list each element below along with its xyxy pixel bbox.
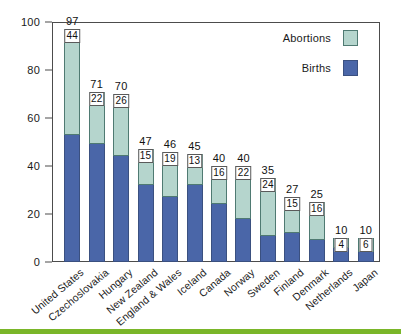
bar-total-label: 25 <box>297 189 337 200</box>
bar-segment-births[interactable] <box>187 185 203 262</box>
y-tick-mark <box>45 70 52 71</box>
y-axis: 020406080100 <box>0 0 52 336</box>
bar-segment-births[interactable] <box>89 144 105 262</box>
y-tick-mark <box>45 262 52 263</box>
abortions-value-label: 4 <box>335 238 348 252</box>
bar-group[interactable]: 2240 <box>235 166 251 262</box>
bar-stack <box>138 149 154 262</box>
abortions-value-label: 26 <box>113 94 129 108</box>
abortions-value-label: 44 <box>64 29 80 43</box>
bar-group[interactable]: 1547 <box>138 149 154 262</box>
bar-total-label: 70 <box>101 81 141 92</box>
bar-total-label: 10 <box>346 225 386 236</box>
bar-total-label: 97 <box>52 16 92 27</box>
bar-segment-births[interactable] <box>64 135 80 262</box>
bar-group[interactable]: 1527 <box>284 197 300 262</box>
y-tick-label: 40 <box>27 161 40 172</box>
bar-total-label: 40 <box>223 153 263 164</box>
y-tick-mark <box>45 214 52 215</box>
bar-total-label: 35 <box>248 165 288 176</box>
y-tick-label: 100 <box>21 17 40 28</box>
chart-legend: AbortionsBirths <box>246 30 358 90</box>
legend-label: Births <box>302 62 331 74</box>
legend-swatch-abortions <box>343 30 358 46</box>
bar-group[interactable]: 1640 <box>211 166 227 262</box>
bar-segment-births[interactable] <box>358 252 374 262</box>
bar-segment-births[interactable] <box>211 204 227 262</box>
bar-stack <box>187 154 203 262</box>
bar-stack <box>211 166 227 262</box>
bar-total-label: 45 <box>175 141 215 152</box>
legend-swatch-births <box>343 60 358 76</box>
bar-segment-births[interactable] <box>309 240 325 262</box>
abortions-value-label: 16 <box>211 166 227 180</box>
bar-segment-births[interactable] <box>138 185 154 262</box>
bar-group[interactable]: 2670 <box>113 94 129 262</box>
abortions-value-label: 6 <box>359 238 372 252</box>
abortions-value-label: 22 <box>89 92 105 106</box>
bar-group[interactable]: 1946 <box>162 152 178 262</box>
bar-stack <box>162 152 178 262</box>
y-tick-mark <box>45 22 52 23</box>
legend-item-abortions[interactable]: Abortions <box>246 30 358 46</box>
bottom-accent-band <box>0 329 401 334</box>
bar-segment-births[interactable] <box>260 236 276 262</box>
y-tick-label: 0 <box>34 257 40 268</box>
bar-segment-births[interactable] <box>113 156 129 262</box>
bar-group[interactable]: 610 <box>358 238 374 262</box>
y-tick-label: 20 <box>27 209 40 220</box>
y-tick-mark <box>45 118 52 119</box>
abortions-value-label: 15 <box>138 149 154 163</box>
bar-stack <box>64 29 80 262</box>
bar-segment-births[interactable] <box>284 233 300 262</box>
bar-stack <box>113 94 129 262</box>
bar-group[interactable]: 2271 <box>89 92 105 262</box>
bar-segment-births[interactable] <box>162 197 178 262</box>
y-tick-label: 60 <box>27 113 40 124</box>
bar-group[interactable]: 4497 <box>64 29 80 262</box>
x-axis-label-japan: Japan <box>349 266 379 294</box>
bar-stack <box>235 166 251 262</box>
bar-stack <box>89 92 105 262</box>
legend-label: Abortions <box>283 32 331 44</box>
bar-group[interactable]: 410 <box>333 238 349 262</box>
abortions-value-label: 19 <box>162 152 178 166</box>
x-axis-category-labels: United StatesCzechoslovakiaHungaryNew Ze… <box>52 266 380 336</box>
y-tick-mark <box>45 166 52 167</box>
bar-group[interactable]: 1345 <box>187 154 203 262</box>
y-tick-label: 80 <box>27 65 40 76</box>
stacked-bar-chart: 020406080100 449722712670154719461345164… <box>0 0 401 336</box>
bar-segment-births[interactable] <box>235 219 251 262</box>
legend-item-births[interactable]: Births <box>246 60 358 76</box>
abortions-value-label: 16 <box>309 202 325 216</box>
